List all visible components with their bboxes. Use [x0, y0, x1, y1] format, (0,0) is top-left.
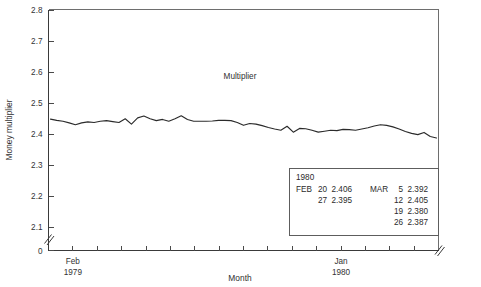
data-table-value: 2.387	[408, 218, 429, 227]
data-table-value: 2.405	[408, 196, 429, 205]
data-table-value: 2.380	[408, 207, 429, 216]
chart-canvas: 02.12.22.32.42.52.62.72.8 Feb1979Jan1980…	[0, 0, 481, 287]
data-table-value: 2.406	[332, 185, 353, 194]
y-axis-title: Money multiplier	[4, 99, 14, 160]
data-table-value: 2.392	[408, 185, 429, 194]
y-tick-label-2.5: 2.5	[31, 99, 43, 108]
data-table-value: 2.395	[332, 196, 353, 205]
data-table-day: 5	[398, 185, 403, 194]
y-tick-label-2.1: 2.1	[31, 223, 43, 232]
series-line-multiplier	[51, 116, 437, 138]
money-multiplier-chart: 02.12.22.32.42.52.62.72.8 Feb1979Jan1980…	[0, 0, 481, 287]
data-table-day: 26	[394, 218, 404, 227]
x-tick-label-jan: Jan	[334, 257, 348, 266]
data-table-month-feb: FEB	[296, 185, 312, 194]
y-axis-tick-labels: 02.12.22.32.42.52.62.72.8	[31, 6, 43, 256]
x-tick-label-feb: Feb	[66, 257, 81, 266]
y-tick-label-2.3: 2.3	[31, 161, 43, 170]
data-table-day: 19	[394, 207, 404, 216]
y-tick-label-2.7: 2.7	[31, 37, 43, 46]
y-tick-label-0: 0	[38, 247, 43, 256]
y-axis-break-icon	[45, 235, 55, 246]
x-axis-title: Month	[228, 273, 252, 283]
data-table-day: 12	[394, 196, 404, 205]
data-table-day: 27	[318, 196, 328, 205]
x-tick-label-1979: 1979	[64, 268, 83, 277]
data-table-day: 20	[318, 185, 328, 194]
y-tick-label-2.4: 2.4	[31, 130, 43, 139]
x-axis-ticks	[73, 246, 414, 251]
series-annotation-label: Multiplier	[224, 72, 257, 81]
x-tick-label-1980: 1980	[332, 268, 351, 277]
y-tick-label-2.2: 2.2	[31, 192, 43, 201]
x-axis-tick-labels: Feb1979Jan1980	[64, 257, 351, 277]
data-table-year: 1980	[296, 173, 315, 182]
y-tick-label-2.6: 2.6	[31, 68, 43, 77]
y-tick-label-2.8: 2.8	[31, 6, 43, 15]
data-table-month-mar: MAR	[370, 185, 388, 194]
y-axis-ticks	[49, 10, 54, 251]
data-table-panel: 1980 FEB202.406272.395MAR52.392122.40519…	[290, 169, 439, 236]
